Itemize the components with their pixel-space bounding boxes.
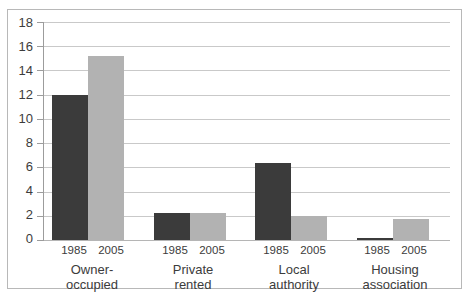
bar-housing-association-2005 xyxy=(393,219,429,240)
year-label-local-1985: 1985 xyxy=(259,244,293,257)
bar-owner-occupied-2005 xyxy=(88,56,124,240)
y-tick-label-6: 6 xyxy=(8,160,33,173)
y-tick-label-2: 2 xyxy=(8,208,33,221)
y-tick-label-10: 10 xyxy=(8,112,33,125)
bar-housing-association-1985 xyxy=(357,238,393,240)
y-tick-label-12: 12 xyxy=(8,88,33,101)
y-tick-label-14: 14 xyxy=(8,64,33,77)
year-label-private-2005: 2005 xyxy=(195,244,229,257)
y-tick-0 xyxy=(37,240,44,241)
bar-private-rented-1985 xyxy=(154,213,190,240)
year-label-owner-2005: 2005 xyxy=(94,244,128,257)
gridline-0 xyxy=(43,240,450,241)
year-label-private-1985: 1985 xyxy=(158,244,192,257)
bar-private-rented-2005 xyxy=(190,213,226,240)
year-label-owner-1985: 1985 xyxy=(57,244,91,257)
bar-local-authority-1985 xyxy=(255,163,291,241)
y-tick-label-18: 18 xyxy=(8,16,33,29)
year-label-housing-1985: 1985 xyxy=(360,244,394,257)
category-label-housing-association: Housing association xyxy=(335,262,455,292)
y-tick-label-16: 16 xyxy=(8,40,33,53)
bar-chart: 18 16 14 12 10 8 6 4 2 0 1985 2005 1985 … xyxy=(0,0,472,296)
bars-layer xyxy=(43,22,450,240)
category-label-housing-association-line1: Housing xyxy=(335,262,455,277)
bar-local-authority-2005 xyxy=(291,216,327,240)
y-tick-label-0: 0 xyxy=(8,232,33,245)
year-label-housing-2005: 2005 xyxy=(397,244,431,257)
bar-owner-occupied-1985 xyxy=(52,95,88,240)
y-tick-label-8: 8 xyxy=(8,136,33,149)
category-label-housing-association-line2: association xyxy=(335,277,455,292)
y-tick-label-4: 4 xyxy=(8,184,33,197)
year-label-local-2005: 2005 xyxy=(296,244,330,257)
